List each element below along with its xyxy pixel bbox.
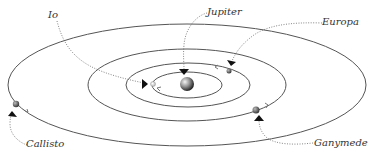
callisto-leader-line <box>10 112 27 145</box>
europa-leader-line <box>232 23 322 61</box>
jupiter-moons-diagram <box>0 0 373 157</box>
jupiter-leader-line <box>184 13 207 70</box>
ganymede-moon <box>253 107 260 114</box>
europa-moon <box>227 69 232 74</box>
io-arrow-icon <box>142 79 148 89</box>
callisto-arrow-icon <box>8 111 17 117</box>
io-label: Io <box>48 10 58 20</box>
callisto-label: Callisto <box>26 139 64 149</box>
jupiter-planet <box>180 77 194 91</box>
ganymede-label: Ganymede <box>314 138 368 148</box>
ganymede-leader-line <box>259 120 313 144</box>
io-leader-line <box>57 21 144 83</box>
io-moon <box>151 82 156 87</box>
leader-lines <box>10 13 322 145</box>
io-direction-tick <box>157 87 161 91</box>
ganymede-arrow-icon <box>254 115 264 121</box>
arrow-heads <box>8 60 264 121</box>
europa-arrow-icon <box>227 60 236 66</box>
callisto-direction-tick <box>25 109 28 112</box>
europa-label: Europa <box>322 17 359 27</box>
jupiter-label: Jupiter <box>207 7 242 17</box>
orbit-direction-ticks <box>25 65 268 112</box>
callisto-moon <box>13 101 19 107</box>
